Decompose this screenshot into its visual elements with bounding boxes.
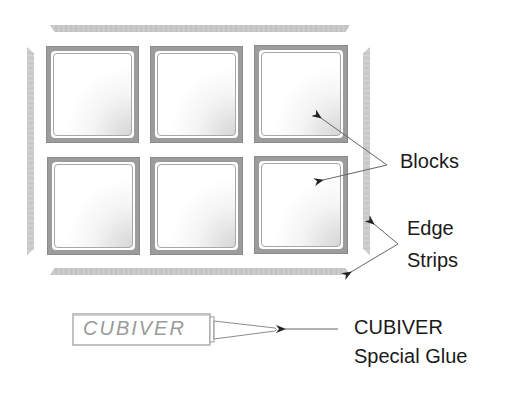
arrow-blocks-1 — [321, 118, 387, 165]
label-glue-line2: Special Glue — [354, 344, 467, 369]
arrow-strips-1 — [374, 224, 398, 244]
arrow-strips-2 — [351, 244, 398, 272]
arrow-blocks-2 — [323, 165, 387, 180]
label-blocks: Blocks — [400, 149, 459, 174]
label-glue-line1: CUBIVER — [354, 315, 443, 340]
diagram-canvas: CUBIVER Blocks Edge Strips CUBIVER Speci… — [0, 0, 520, 399]
label-edge-strips-line2: Strips — [407, 248, 458, 273]
label-edge-strips-line1: Edge — [407, 216, 454, 241]
